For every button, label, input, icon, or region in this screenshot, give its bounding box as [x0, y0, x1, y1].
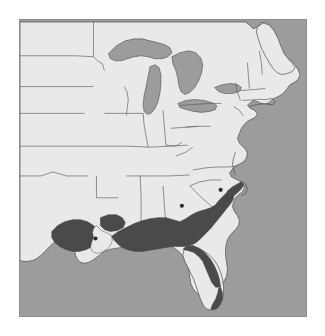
map-frame [19, 19, 307, 317]
point-marker-record-louisiana [93, 236, 97, 240]
map-canvas [20, 20, 306, 316]
land-layer [20, 22, 300, 310]
coastline-long-island [249, 103, 270, 106]
species-range-map-figure: Shaded range Outside range Water Isolate… [0, 0, 325, 336]
land-polygon-continental-us [20, 22, 300, 296]
point-marker-record-georgia [180, 204, 184, 208]
point-marker-record-north-carolina [219, 188, 223, 192]
